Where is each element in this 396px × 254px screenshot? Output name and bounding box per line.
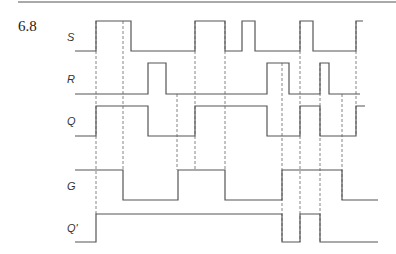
waveform-g (75, 170, 378, 200)
timing-diagram: 6.8 SRQGQ' (0, 0, 396, 254)
signal-label-r: R (67, 73, 75, 85)
signal-label-s: S (67, 31, 75, 43)
signal-label-q: Q (67, 115, 76, 127)
waveform-r (75, 63, 360, 94)
waveform-q (75, 106, 365, 136)
waveform-qprime (75, 214, 378, 242)
signal-label-qprime: Q' (67, 222, 79, 234)
signal-labels: SRQGQ' (67, 31, 79, 234)
dashed-reference-lines (96, 21, 356, 242)
waveform-s (75, 21, 363, 51)
figure-number: 6.8 (18, 18, 37, 34)
waveforms (75, 21, 378, 242)
signal-label-g: G (67, 180, 76, 192)
